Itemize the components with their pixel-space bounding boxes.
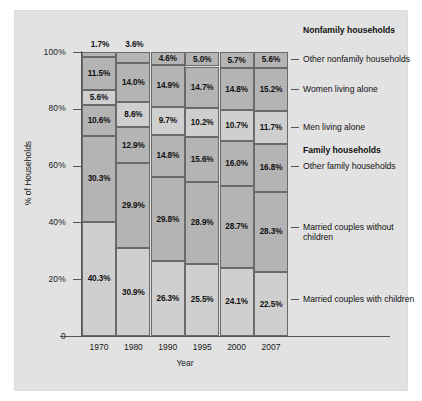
legend-tick-dash	[291, 59, 299, 60]
bar-segment: 14.7%	[185, 67, 219, 109]
bar-segment: 28.7%	[220, 186, 254, 268]
legend-label: Married couples without children	[303, 222, 418, 243]
bar-1995: 25.5%28.9%15.6%10.2%14.7%5.0%	[185, 52, 219, 336]
y-tick-label: 100%	[14, 47, 66, 57]
x-tick-label-1970: 1970	[82, 342, 116, 352]
bar-segment-label: 28.7%	[225, 222, 248, 231]
bar-segment: 5.6%	[82, 90, 116, 106]
bar-segment-label: 14.8%	[156, 151, 179, 160]
bar-1990: 26.3%29.8%14.8%9.7%14.9%4.6%	[151, 52, 185, 336]
bar-segment-label: 30.3%	[88, 174, 111, 183]
y-tick-mark	[73, 109, 81, 110]
y-tick-label: 40%	[14, 217, 66, 227]
legend-label: Men living alone	[303, 122, 418, 133]
x-tick-label-2007: 2007	[254, 342, 288, 352]
bar-segment: 29.8%	[151, 177, 185, 262]
bar-segment-label: 4.6%	[159, 54, 177, 63]
x-tick-label-1990: 1990	[151, 342, 185, 352]
bar-segment: 1.7%	[82, 52, 116, 57]
y-axis-title-text: % of Households	[23, 141, 33, 205]
bar-segment: 5.6%	[254, 52, 288, 68]
legend-label: Other nonfamily households	[303, 54, 418, 65]
bar-segment-label: 16.8%	[260, 163, 283, 172]
bar-segment-label: 24.1%	[225, 297, 248, 306]
bar-segment: 10.6%	[82, 105, 116, 135]
bar-segment-label: 16.0%	[225, 159, 248, 168]
y-tick-mark	[73, 336, 81, 337]
bar-segment: 16.0%	[220, 141, 254, 186]
bar-2007: 22.5%28.3%16.8%11.7%15.2%5.6%	[254, 52, 288, 336]
x-axis-title: Year	[82, 358, 288, 368]
bar-segment: 28.9%	[185, 182, 219, 264]
bar-segment-label: 10.2%	[191, 118, 214, 127]
bar-segment-label: 22.5%	[260, 300, 283, 309]
bar-segment: 11.5%	[82, 57, 116, 90]
bar-segment: 9.7%	[151, 107, 185, 135]
bar-segment-label: 5.7%	[227, 56, 245, 65]
legend-tick-dash	[291, 89, 299, 90]
bar-segment: 11.7%	[254, 111, 288, 144]
bar-segment-label: 5.6%	[90, 93, 108, 102]
bar-segment: 5.7%	[220, 52, 254, 68]
x-axis-line	[60, 336, 390, 337]
x-tick-label-1995: 1995	[185, 342, 219, 352]
y-tick-label: 80%	[14, 103, 66, 113]
bar-segment: 16.8%	[254, 144, 288, 192]
bar-segment-label: 29.9%	[122, 201, 145, 210]
bar-segment: 4.6%	[151, 52, 185, 65]
bar-segment-label: 14.9%	[156, 81, 179, 90]
bar-segment: 40.3%	[82, 222, 116, 336]
bar-segment-label: 15.6%	[191, 155, 214, 164]
bar-segment: 25.5%	[185, 264, 219, 336]
bar-segment: 8.6%	[116, 102, 150, 126]
bar-segment-label: 15.2%	[260, 85, 283, 94]
bar-segment-label: 5.0%	[193, 55, 211, 64]
y-tick-label: 60%	[14, 160, 66, 170]
bar-segment: 14.8%	[220, 68, 254, 110]
bar-segment: 14.0%	[116, 63, 150, 103]
bar-segment: 28.3%	[254, 192, 288, 272]
bar-segment: 30.3%	[82, 136, 116, 222]
bar-segment-label: 9.7%	[159, 116, 177, 125]
bar-segment-label: 30.9%	[122, 288, 145, 297]
bar-segment-label: 11.5%	[88, 69, 110, 78]
legend-label: Family households	[303, 145, 418, 156]
bar-segment: 10.2%	[185, 108, 219, 137]
bar-2000: 24.1%28.7%16.0%10.7%14.8%5.7%	[220, 52, 254, 336]
bar-segment-label: 5.6%	[262, 55, 280, 64]
bar-segment: 22.5%	[254, 272, 288, 336]
y-tick-mark	[73, 166, 81, 167]
legend-label: Women living alone	[303, 84, 418, 95]
bar-segment-label: 25.5%	[191, 295, 214, 304]
bar-segment-label: 10.6%	[88, 116, 111, 125]
bar-segment: 30.9%	[116, 248, 150, 336]
bar-segment: 24.1%	[220, 268, 254, 336]
bar-segment-label: 28.3%	[260, 227, 283, 236]
plot-area: 020%40%60%80%100% % of Households 40.3%3…	[0, 0, 422, 401]
legend-tick-dash	[291, 227, 299, 228]
x-tick-label-1980: 1980	[116, 342, 150, 352]
bar-segment: 14.8%	[151, 135, 185, 177]
legend-tick-dash	[291, 166, 299, 167]
legend-tick-dash	[291, 299, 299, 300]
y-tick-mark	[73, 52, 81, 53]
bar-1970: 40.3%30.3%10.6%5.6%11.5%1.7%	[82, 52, 116, 336]
bar-segment: 15.6%	[185, 137, 219, 181]
legend-label: Nonfamily households	[303, 25, 418, 36]
bar-segment: 14.9%	[151, 65, 185, 107]
x-tick-label-2000: 2000	[220, 342, 254, 352]
y-tick-label: 20%	[14, 274, 66, 284]
bar-segment-label: 8.6%	[124, 110, 142, 119]
y-tick-label: 0	[14, 331, 66, 341]
bar-segment: 26.3%	[151, 261, 185, 336]
bar-segment-label: 26.3%	[156, 294, 179, 303]
bar-segment-label: 12.9%	[122, 141, 145, 150]
bar-segment-label: 11.7%	[260, 123, 282, 132]
y-axis-title: % of Households	[23, 133, 33, 213]
bar-segment-label: 14.8%	[225, 85, 248, 94]
legend-tick-dash	[291, 127, 299, 128]
legend-label: Married couples with children	[303, 294, 418, 305]
legend-label: Other family households	[303, 161, 418, 172]
bar-segment-label: 14.7%	[191, 83, 214, 92]
bar-segment-label: 40.3%	[88, 274, 111, 283]
